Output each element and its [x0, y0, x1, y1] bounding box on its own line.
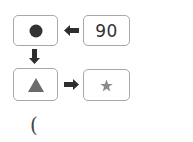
number-box: 90	[83, 15, 130, 46]
footer-text: (	[30, 113, 38, 137]
arrow-left-icon	[64, 25, 79, 36]
circle-box	[13, 15, 58, 46]
star-icon	[100, 79, 113, 92]
number-value: 90	[95, 21, 118, 41]
triangle-icon	[28, 78, 44, 92]
triangle-box	[13, 68, 58, 101]
arrow-down-icon	[29, 49, 40, 64]
circle-icon	[29, 24, 43, 38]
arrow-right-icon	[64, 79, 79, 90]
star-box	[83, 69, 130, 101]
